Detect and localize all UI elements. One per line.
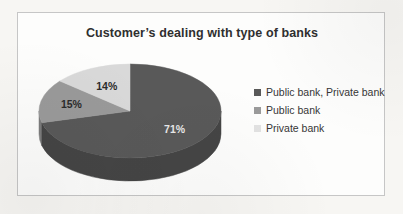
- chart-title: Customer’s dealing with type of banks: [18, 26, 386, 40]
- legend-label-both-banks: Public bank, Private bank: [266, 87, 384, 98]
- pie-label-private-bank: 14%: [96, 80, 118, 92]
- pie-slices: [39, 64, 221, 158]
- legend-label-private-bank: Private bank: [266, 123, 324, 134]
- pie-label-both-banks: 71%: [164, 123, 186, 135]
- pie-chart-svg: 71% 15% 14%: [37, 54, 223, 189]
- legend-label-public-bank: Public bank: [266, 105, 320, 116]
- legend-item-both-banks[interactable]: Public bank, Private bank: [254, 83, 382, 101]
- legend-swatch-both-banks: [254, 89, 261, 96]
- legend-item-public-bank[interactable]: Public bank: [254, 101, 382, 119]
- chart-legend: Public bank, Private bank Public bank Pr…: [254, 83, 382, 137]
- chart-frame: Customer’s dealing with type of banks 71…: [17, 12, 385, 196]
- pie-label-public-bank: 15%: [61, 98, 83, 110]
- legend-swatch-public-bank: [254, 107, 261, 114]
- chart-screenshot: Customer’s dealing with type of banks 71…: [0, 0, 403, 214]
- pie-chart: 71% 15% 14%: [37, 54, 223, 189]
- legend-item-private-bank[interactable]: Private bank: [254, 119, 382, 137]
- legend-swatch-private-bank: [254, 125, 261, 132]
